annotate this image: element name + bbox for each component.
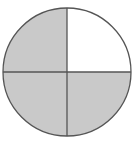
fraction-circle-diagram [0,0,138,150]
quadrant-top-left [3,8,67,72]
quadrant-bottom-left [3,72,67,136]
quadrant-top-right [67,8,131,72]
fraction-circle-svg [0,0,138,150]
quadrant-bottom-right [67,72,131,136]
